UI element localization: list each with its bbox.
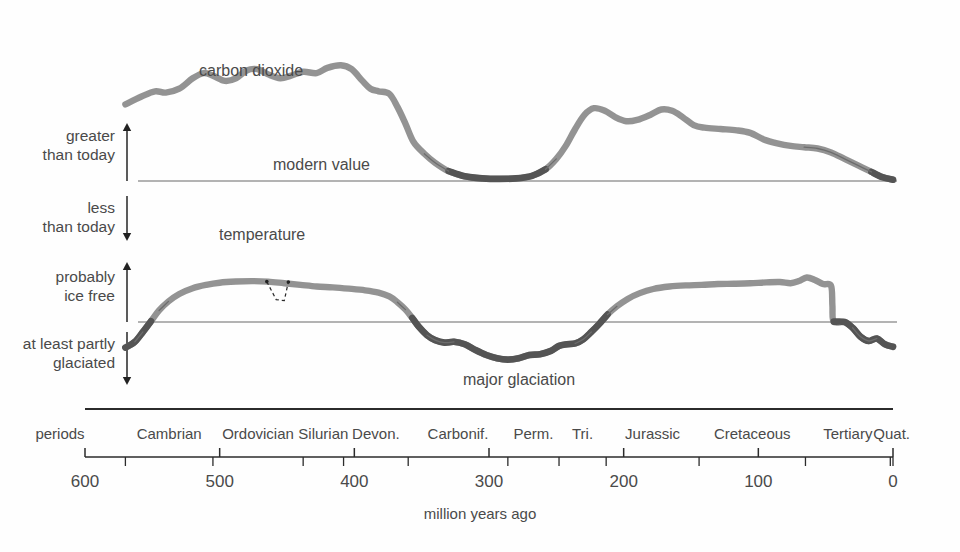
- arrow-probably-ice-free-head: [123, 262, 131, 270]
- axis-label-at-least-partly-glaciated: at least partly glaciated: [0, 334, 115, 372]
- period-label: Quat.: [832, 425, 952, 442]
- series-line-temperature: [125, 277, 893, 359]
- series-line-co2: [125, 65, 893, 179]
- arrow-greater-than-today-head: [123, 123, 131, 131]
- series-line-temperature-dark-2: [834, 321, 893, 346]
- axis-label-less-line2: than today: [10, 217, 115, 236]
- x-tick-label: 400: [314, 472, 394, 492]
- axis-label-icefree-line1: probably: [10, 267, 115, 286]
- axis-label-greater-than-today: greater than today: [10, 126, 115, 164]
- axis-label-glaciated-line1: at least partly: [0, 334, 115, 353]
- curve-label-carbon-dioxide: carbon dioxide: [199, 62, 303, 80]
- periods-row-label: periods: [30, 425, 90, 442]
- x-tick-label: 300: [449, 472, 529, 492]
- x-tick-label: 200: [584, 472, 664, 492]
- axis-label-greater-line1: greater: [10, 126, 115, 145]
- x-tick-label: 500: [180, 472, 260, 492]
- x-axis-caption: million years ago: [330, 505, 630, 522]
- axis-label-probably-ice-free: probably ice free: [10, 267, 115, 305]
- axis-label-icefree-line2: ice free: [10, 286, 115, 305]
- annotation-endpoint-right: [287, 280, 291, 284]
- axis-label-less-line1: less: [10, 198, 115, 217]
- annotation-endpoint-left: [265, 280, 269, 284]
- axis-label-greater-line2: than today: [10, 145, 115, 164]
- curve-label-temperature: temperature: [219, 226, 305, 244]
- series-line-temperature-dark-0: [125, 321, 151, 347]
- series-line-co2-dark-1: [871, 172, 893, 180]
- x-tick-label: 600: [45, 472, 125, 492]
- chart-svg: [0, 0, 960, 552]
- curve-label-modern-value: modern value: [273, 156, 370, 174]
- curve-label-major-glaciation: major glaciation: [463, 371, 575, 389]
- x-tick-label: 100: [718, 472, 798, 492]
- axis-label-less-than-today: less than today: [10, 198, 115, 236]
- x-tick-label: 0: [853, 472, 933, 492]
- axis-label-glaciated-line2: glaciated: [0, 353, 115, 372]
- series-line-co2-dark-0: [449, 169, 546, 179]
- arrow-at-least-partly-glaciated-head: [123, 377, 131, 385]
- arrow-less-than-today-head: [123, 233, 131, 241]
- figure-canvas: greater than today less than today proba…: [0, 0, 960, 552]
